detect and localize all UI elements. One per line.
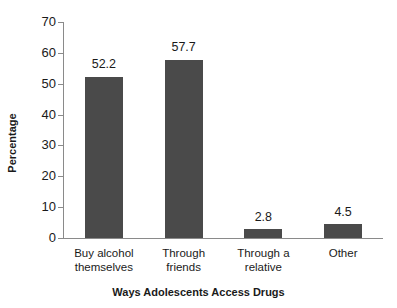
x-axis-category-label: Other — [303, 246, 383, 260]
y-axis-tick-labels: 706050403020100 — [22, 0, 56, 308]
y-axis-tick-label: 40 — [26, 108, 56, 121]
bar-value-label: 4.5 — [310, 206, 376, 219]
x-axis-line — [63, 238, 383, 239]
category-label-line: themselves — [64, 260, 144, 274]
category-label-line: friends — [144, 260, 224, 274]
bar-group[interactable]: 4.5 — [324, 22, 362, 238]
x-axis-title: Ways Adolescents Access Drugs — [0, 286, 397, 298]
bar-value-label: 2.8 — [230, 211, 296, 224]
category-label-line: relative — [224, 260, 304, 274]
bar[interactable] — [165, 60, 203, 238]
y-axis-tick-label: 10 — [26, 200, 56, 213]
bar[interactable] — [85, 77, 123, 238]
bar-group[interactable]: 2.8 — [244, 22, 282, 238]
category-label-line: Through a — [224, 246, 304, 260]
category-label-line: Buy alcohol — [64, 246, 144, 260]
bar-value-label: 57.7 — [151, 41, 217, 54]
bar[interactable] — [324, 224, 362, 238]
x-axis-category-label: Buy alcoholthemselves — [64, 246, 144, 274]
plot-area: 52.257.72.84.5 — [64, 22, 383, 238]
bar-value-label: 52.2 — [71, 58, 137, 71]
x-axis-category-label: Through arelative — [224, 246, 304, 274]
bar-group[interactable]: 52.2 — [85, 22, 123, 238]
category-label-line: Through — [144, 246, 224, 260]
category-label-line: Other — [303, 246, 383, 260]
y-axis-tick-label: 60 — [26, 46, 56, 59]
y-axis-tick-label: 20 — [26, 169, 56, 182]
x-axis-category-label: Throughfriends — [144, 246, 224, 274]
bar-group[interactable]: 57.7 — [165, 22, 203, 238]
bar-chart: Percentage 706050403020100 52.257.72.84.… — [0, 0, 397, 308]
y-axis-tick-label: 50 — [26, 77, 56, 90]
y-axis-tick-label: 70 — [26, 15, 56, 28]
bar[interactable] — [244, 229, 282, 238]
y-axis-tick-label: 30 — [26, 138, 56, 151]
y-axis-tick-label: 0 — [26, 231, 56, 244]
